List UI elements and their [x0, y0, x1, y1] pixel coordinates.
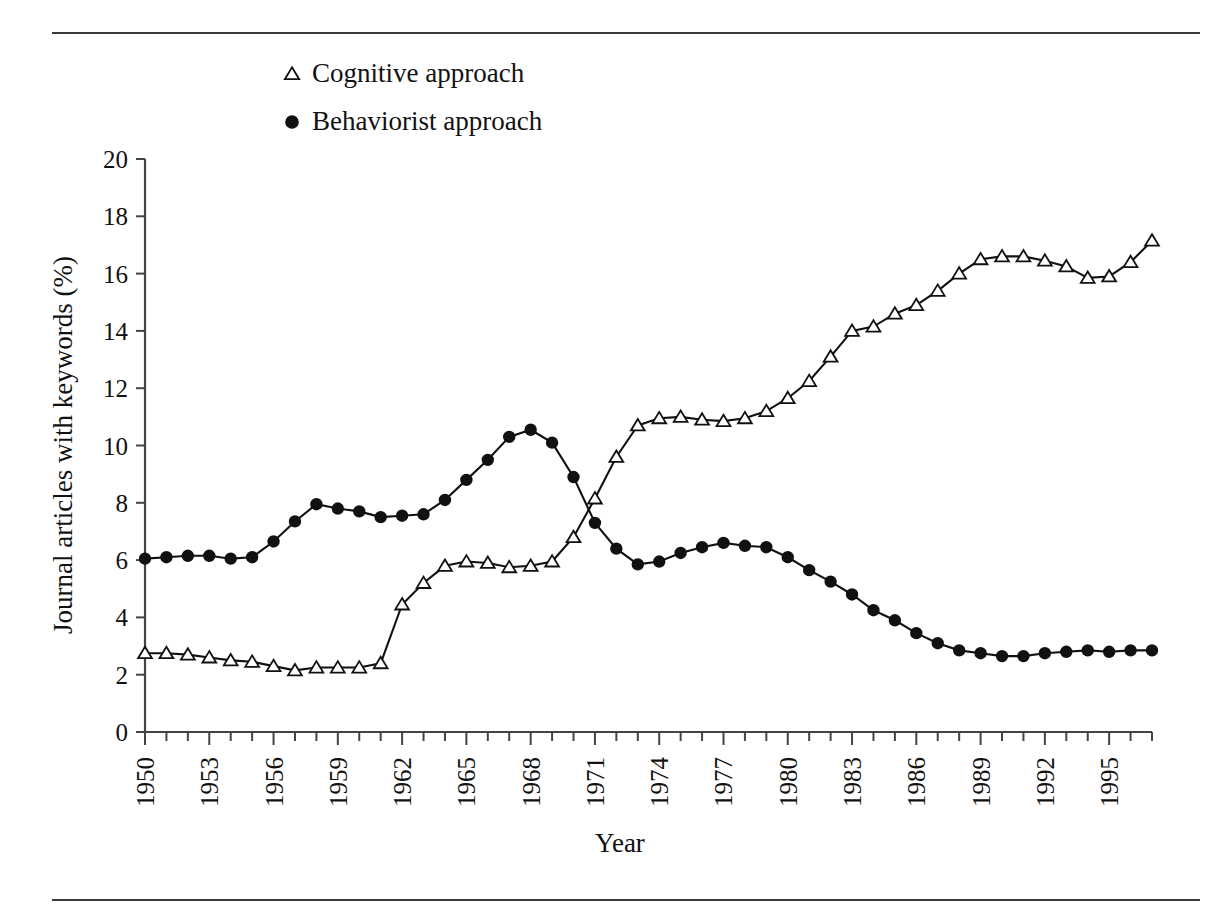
x-axis-tick-label: 1959: [325, 757, 352, 807]
filled-circle-marker: [1147, 645, 1158, 656]
filled-circle-marker: [440, 495, 451, 506]
filled-circle-marker: [1018, 651, 1029, 662]
legend-label: Cognitive approach: [312, 58, 525, 88]
filled-circle-marker: [1082, 645, 1093, 656]
open-triangle-marker: [567, 531, 581, 542]
filled-circle-marker: [332, 503, 343, 514]
x-axis-ticks: 1950195319561959196219651968197119741977…: [132, 732, 1152, 807]
x-axis-tick-label: 1953: [196, 757, 223, 807]
y-axis-tick-label: 4: [116, 604, 129, 631]
filled-circle-marker: [911, 628, 922, 639]
x-axis-title: Year: [595, 828, 645, 858]
y-axis-tick-label: 18: [103, 203, 128, 230]
filled-circle-marker: [889, 615, 900, 626]
filled-circle-marker: [354, 506, 365, 517]
figure-container: Cognitive approachBehaviorist approach 0…: [0, 0, 1216, 909]
filled-circle-marker: [590, 517, 601, 528]
legend-entry-2: Behaviorist approach: [286, 106, 543, 136]
open-triangle-marker: [952, 267, 966, 278]
filled-circle-marker: [482, 454, 493, 465]
filled-circle-marker: [611, 543, 622, 554]
filled-circle-marker: [1104, 646, 1115, 657]
open-triangle-marker: [1145, 234, 1159, 245]
x-axis-tick-label: 1992: [1032, 757, 1059, 807]
filled-circle-marker: [525, 424, 536, 435]
y-axis-title: Journal articles with keywords (%): [48, 256, 78, 634]
legend-entry-1: Cognitive approach: [285, 58, 525, 88]
filled-circle-marker: [204, 550, 215, 561]
line-chart: Cognitive approachBehaviorist approach 0…: [0, 0, 1216, 909]
x-axis-tick-label: 1977: [710, 757, 737, 807]
y-axis-tick-label: 12: [103, 375, 128, 402]
series-1: [138, 234, 1159, 675]
filled-circle-marker: [247, 552, 258, 563]
filled-circle-marker: [547, 437, 558, 448]
x-axis-tick-label: 1983: [839, 757, 866, 807]
filled-circle-marker: [932, 638, 943, 649]
filled-circle-marker: [997, 651, 1008, 662]
chart-series: [138, 234, 1159, 675]
y-axis-tick-label: 20: [103, 146, 128, 173]
filled-circle-marker: [397, 510, 408, 521]
y-axis-tick-label: 16: [103, 261, 128, 288]
open-triangle-marker: [588, 492, 602, 503]
x-axis-tick-label: 1968: [518, 757, 545, 807]
y-axis-tick-label: 14: [103, 318, 129, 345]
x-axis-tick-label: 1974: [646, 757, 673, 808]
filled-circle-marker: [290, 516, 301, 527]
filled-circle-marker: [954, 645, 965, 656]
filled-circle-marker: [825, 576, 836, 587]
y-axis-tick-label: 10: [103, 433, 128, 460]
filled-circle-marker: [740, 540, 751, 551]
filled-circle-marker: [286, 116, 298, 128]
y-axis-tick-label: 8: [116, 490, 129, 517]
x-axis-tick-label: 1980: [775, 757, 802, 807]
chart-legend: Cognitive approachBehaviorist approach: [285, 58, 543, 136]
x-axis-tick-label: 1971: [582, 757, 609, 807]
open-triangle-marker: [759, 405, 773, 416]
y-axis-tick-label: 0: [116, 719, 129, 746]
open-triangle-marker: [609, 451, 623, 462]
filled-circle-marker: [847, 589, 858, 600]
series-line: [145, 430, 1152, 656]
filled-circle-marker: [697, 542, 708, 553]
y-axis-tick-label: 6: [116, 547, 129, 574]
series-2: [140, 424, 1158, 661]
y-axis-tick-label: 2: [116, 662, 129, 689]
filled-circle-marker: [1039, 648, 1050, 659]
filled-circle-marker: [1125, 645, 1136, 656]
filled-circle-marker: [311, 499, 322, 510]
series-line: [145, 241, 1152, 671]
filled-circle-marker: [504, 432, 515, 443]
x-axis-tick-label: 1965: [453, 757, 480, 807]
filled-circle-marker: [225, 553, 236, 564]
filled-circle-marker: [975, 648, 986, 659]
filled-circle-marker: [654, 556, 665, 567]
filled-circle-marker: [182, 550, 193, 561]
open-triangle-marker: [285, 67, 299, 79]
chart-axes: [145, 159, 1152, 732]
filled-circle-marker: [161, 552, 172, 563]
open-triangle-marker: [909, 299, 923, 310]
filled-circle-marker: [375, 512, 386, 523]
filled-circle-marker: [140, 553, 151, 564]
filled-circle-marker: [761, 542, 772, 553]
x-axis-tick-label: 1995: [1096, 757, 1123, 807]
filled-circle-marker: [418, 509, 429, 520]
open-triangle-marker: [374, 657, 388, 668]
x-axis-tick-label: 1962: [389, 757, 416, 807]
filled-circle-marker: [675, 548, 686, 559]
legend-label: Behaviorist approach: [312, 106, 543, 136]
filled-circle-marker: [804, 565, 815, 576]
open-triangle-marker: [888, 307, 902, 318]
filled-circle-marker: [868, 605, 879, 616]
filled-circle-marker: [1061, 646, 1072, 657]
filled-circle-marker: [568, 472, 579, 483]
filled-circle-marker: [632, 559, 643, 570]
open-triangle-marker: [867, 320, 881, 331]
x-axis-tick-label: 1956: [261, 757, 288, 807]
filled-circle-marker: [782, 552, 793, 563]
x-axis-tick-label: 1986: [903, 757, 930, 807]
filled-circle-marker: [268, 536, 279, 547]
filled-circle-marker: [718, 538, 729, 549]
